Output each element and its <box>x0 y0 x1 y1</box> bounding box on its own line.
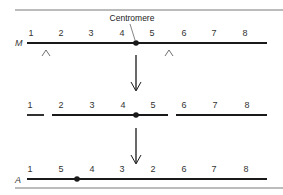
gene-label: 7 <box>211 28 216 38</box>
gene-label: 3 <box>119 164 124 174</box>
gene-label: 2 <box>58 100 63 110</box>
gene-label: 8 <box>242 28 247 38</box>
gene-label: 5 <box>149 28 154 38</box>
gene-label: 6 <box>181 28 186 38</box>
gene-label: 7 <box>212 100 217 110</box>
centromere-label: Centromere <box>110 13 155 23</box>
gene-label: 4 <box>120 100 125 110</box>
gene-label: 2 <box>150 164 155 174</box>
gene-label: 8 <box>243 164 248 174</box>
centromere-pointer <box>130 24 135 40</box>
break-mark-icon <box>165 50 173 56</box>
gene-label: 1 <box>27 100 32 110</box>
gene-label: 6 <box>181 164 186 174</box>
gene-label: 1 <box>28 28 33 38</box>
down-arrow-icon <box>131 55 141 91</box>
gene-label: 5 <box>58 164 63 174</box>
gene-label: 4 <box>119 28 124 38</box>
gene-label: 1 <box>27 164 32 174</box>
down-arrow-icon <box>131 128 141 164</box>
genes-row-middle: 1 2 3 4 5 6 7 8 <box>27 100 249 110</box>
gene-label: 2 <box>58 28 63 38</box>
gene-label: 3 <box>89 100 94 110</box>
centromere-dot-m <box>133 40 139 46</box>
gene-label: 3 <box>88 28 93 38</box>
centromere-dot-a <box>74 176 80 182</box>
chromosome-inversion-diagram: Centromere M 1 2 3 4 5 6 7 8 1 2 3 4 5 6… <box>0 0 283 195</box>
row-label-a: A <box>14 175 21 185</box>
genes-row-m: 1 2 3 4 5 6 7 8 <box>28 28 247 38</box>
gene-label: 5 <box>150 100 155 110</box>
centromere-dot-middle <box>133 112 139 118</box>
row-label-m: M <box>15 38 23 48</box>
genes-row-a: 1 5 4 3 2 6 7 8 <box>27 164 248 174</box>
chromosome-fragments <box>27 112 267 118</box>
gene-label: 8 <box>244 100 249 110</box>
gene-label: 6 <box>181 100 186 110</box>
gene-label: 4 <box>89 164 94 174</box>
break-mark-icon <box>42 50 50 56</box>
gene-label: 7 <box>211 164 216 174</box>
